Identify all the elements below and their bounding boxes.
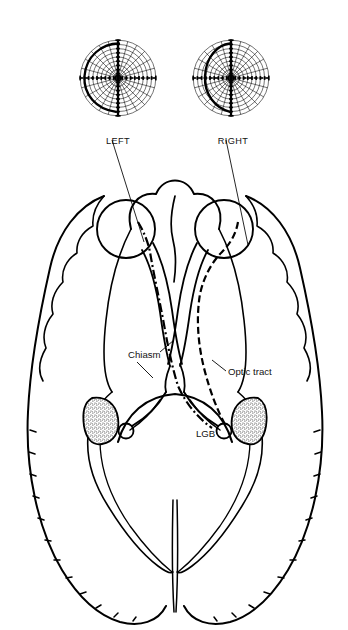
lgb-label: LGB [196,428,215,439]
left-lgb[interactable] [83,398,118,445]
optic-tract-label: Optic tract [228,366,272,377]
right-lgb[interactable] [232,398,267,445]
chiasm-label: Chiasm [128,349,161,360]
field-chart-right-label: RIGHT [218,136,249,146]
visual-pathway-figure: LEFT RIGHT [0,0,348,630]
field-chart-left-label: LEFT [106,136,130,146]
